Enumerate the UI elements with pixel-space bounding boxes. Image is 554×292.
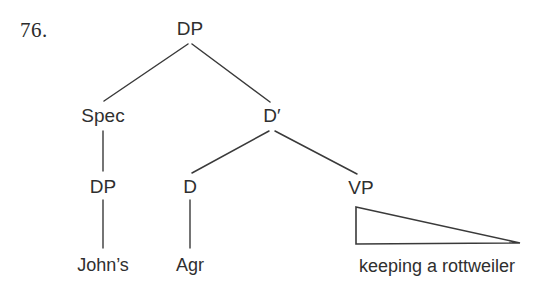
tree-branch-dbar-to-vp bbox=[275, 131, 357, 174]
vp-triangle bbox=[356, 207, 520, 244]
terminal-johns: John’s bbox=[77, 255, 129, 276]
terminal-vp-string: keeping a rottweiler bbox=[359, 256, 515, 277]
node-d-head: D bbox=[183, 176, 197, 198]
node-vp: VP bbox=[348, 177, 373, 199]
tree-branch-root-to-dbar bbox=[192, 44, 270, 102]
tree-branch-dbar-to-d bbox=[192, 131, 269, 173]
node-dbar: D′ bbox=[263, 105, 280, 127]
node-spec-dp: DP bbox=[90, 176, 116, 198]
syntax-tree-figure: 76. DPSpecD′DPDVP John’sAgrkeeping a rot… bbox=[0, 0, 554, 292]
branch-layer bbox=[103, 44, 357, 248]
triangle-layer bbox=[356, 207, 520, 244]
terminal-agr: Agr bbox=[176, 255, 204, 276]
tree-branch-root-to-spec bbox=[104, 44, 188, 101]
tree-lines-svg bbox=[0, 0, 554, 292]
node-spec: Spec bbox=[81, 105, 124, 127]
node-root-dp: DP bbox=[177, 18, 203, 40]
